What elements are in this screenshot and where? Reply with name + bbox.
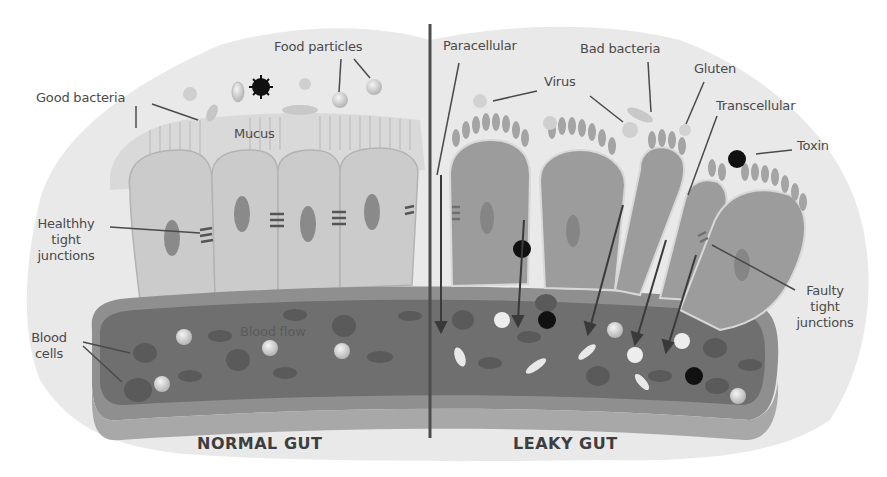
leaky-gut-diagram: LEAKY GUT SYNDROME Food particles Good b… (0, 0, 887, 477)
label-line: junctions (784, 315, 866, 331)
label-line: cells (26, 346, 72, 362)
label-mucus: Mucus (234, 126, 275, 142)
section-label-leaky-gut: LEAKY GUT (513, 436, 618, 452)
section-label-normal-gut: NORMAL GUT (197, 436, 322, 452)
blood-vessel (92, 287, 778, 441)
label-line: junctions (26, 248, 106, 264)
diagram-illustration (0, 0, 887, 477)
label-blood-cells: Blood cells (26, 330, 72, 362)
label-blood-flow: Blood flow (240, 324, 306, 340)
food-particle (366, 79, 382, 95)
label-line: tight (26, 232, 106, 248)
virus-icon (473, 94, 487, 108)
label-good-bacteria: Good bacteria (36, 90, 125, 106)
label-line: Healthhy (26, 216, 106, 232)
label-toxin: Toxin (797, 138, 829, 154)
label-gluten: Gluten (694, 61, 736, 77)
label-faulty-tight-junctions: Faulty tight junctions (784, 283, 866, 331)
label-line: Faulty (784, 283, 866, 299)
label-virus: Virus (544, 74, 576, 90)
label-paracellular: Paracellular (443, 38, 517, 54)
label-healthy-tight-junctions: Healthhy tight junctions (26, 216, 106, 264)
label-food-particles: Food particles (274, 39, 362, 55)
label-transcellular: Transcellular (716, 98, 795, 114)
food-particle (332, 92, 348, 108)
label-line: Blood (26, 330, 72, 346)
label-bad-bacteria: Bad bacteria (580, 41, 660, 57)
label-line: tight (784, 299, 866, 315)
